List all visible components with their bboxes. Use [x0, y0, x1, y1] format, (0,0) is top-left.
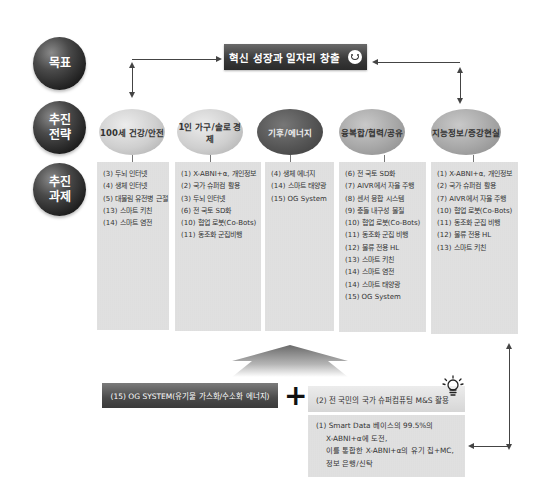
right-goal-connector: [378, 62, 460, 63]
task-item: (1) X-ABNI+α, 개인정보: [181, 168, 255, 180]
arrowhead-down-icon: [457, 98, 463, 104]
row-label-strategy: 추진 전략: [33, 101, 86, 154]
task-item: (11) 동조화 군집비행: [181, 229, 255, 241]
task-item: (1) X-ABNI+α, 개인정보: [437, 168, 512, 180]
strategy-oval-health: 100세 건강/안전: [99, 109, 165, 155]
task-item: (14) 스마트 염전: [345, 266, 420, 278]
smart-data-box: (1) Smart Data 베이스의 99.5%의 X-ABNI+α에 도전,…: [308, 415, 465, 477]
task-item: (15) OG System: [271, 193, 328, 205]
task-item: (12) 물류 전용 HL: [437, 229, 512, 241]
strategy-oval-convergence: 융복합/협력/공유: [339, 109, 405, 155]
goal-box: 혁신 성장과 일자리 창출: [224, 44, 367, 70]
strategy-label: 기후/에너지: [268, 126, 311, 138]
task-item: (13) 스마트 키친: [437, 242, 512, 254]
task-item: (7) AIVR에서 자율 주행: [345, 180, 420, 192]
smart-data-line: X-ABNI+α에 도전,: [316, 433, 457, 446]
goal-title: 혁신 성장과 일자리 창출: [229, 50, 340, 65]
row-label-tasks-line2: 과제: [49, 190, 71, 205]
row-label-strategy-line2: 전략: [49, 128, 71, 143]
smart-data-line: 정보 은행/신탁: [316, 458, 457, 471]
task-box-solo-economy: (1) X-ABNI+α, 개인정보 (2) 국가 슈퍼컴 활용 (3) 두뇌 …: [175, 162, 261, 331]
strategy-label: 100세 건강/안전: [100, 126, 164, 138]
task-item: (6) 전 국토 SD화: [181, 205, 255, 217]
task-box-convergence: (6) 전 국토 SD화 (7) AIVR에서 자율 주행 (8) 센서 융합 …: [339, 162, 426, 332]
og-system-text: (15) OG SYSTEM(유기물 가스화/수소화 에너지): [111, 390, 270, 401]
strategy-label: 융복합/협력/공유: [341, 126, 403, 138]
task-item: (4) 생체 인터넷: [103, 180, 163, 192]
arrowhead-up-icon: [506, 343, 512, 349]
task-box-health: (3) 두뇌 인터넷 (4) 생체 인터넷 (5) 대물림 유전병 근절 (13…: [97, 162, 169, 330]
right-bottom-horizontal-connector: [474, 446, 509, 447]
arrowhead-up-icon: [129, 62, 135, 68]
task-box-climate-energy: (4) 생체 에너지 (14) 스마트 태양광 (15) OG System: [265, 162, 334, 331]
row-label-tasks: 추진 과제: [33, 163, 86, 216]
task-item: (8) 센서 융합 시스템: [345, 193, 420, 205]
lightbulb-icon: [442, 375, 464, 399]
smiley-icon: [348, 50, 362, 64]
og-system-bar: (15) OG SYSTEM(유기물 가스화/수소화 에너지): [102, 383, 278, 408]
task-item: (14) 스마트 염전: [103, 217, 163, 229]
strategy-oval-solo-economy: 1인 가구/솔로 경제: [177, 109, 243, 155]
row-label-goal-text: 목표: [49, 56, 71, 71]
arrowhead-left-icon: [372, 59, 378, 65]
arrowhead-down-icon: [506, 444, 512, 450]
arrowhead-up-icon: [457, 67, 463, 73]
task-item: (5) 대물림 유전병 근절: [103, 193, 163, 205]
row-label-tasks-line1: 추진: [49, 175, 71, 190]
task-item: (14) 스마트 태양광: [345, 279, 420, 291]
supercomputing-text: (2) 전 국민의 국가 슈퍼컴퓨팅 M&S 활용: [316, 394, 449, 405]
task-item: (13) 스마트 키친: [345, 254, 420, 266]
task-item: (14) 스마트 태양광: [271, 180, 328, 192]
strategy-label: 지능정보/증강현실: [432, 126, 499, 138]
strategy-oval-climate-energy: 기후/에너지: [257, 109, 323, 155]
strategy-label: 1인 가구/솔로 경제: [177, 120, 243, 144]
smart-data-line: (1) Smart Data 베이스의 99.5%의: [316, 420, 457, 433]
left-vertical-connector: [132, 66, 133, 92]
strategy-oval-intelligence: 지능정보/증강현실: [431, 109, 501, 155]
plus-icon: +: [284, 382, 307, 410]
arrowhead-left-icon: [468, 443, 474, 449]
right-bottom-vertical-connector: [509, 348, 510, 446]
task-item: (4) 생체 에너지: [271, 168, 328, 180]
task-item: (11) 동조화 군집 비행: [345, 229, 420, 241]
task-item: (10) 협업 로봇(Co-Bots): [181, 217, 255, 229]
task-item: (9) 충돌 내구성 물질: [345, 205, 420, 217]
task-box-intelligence: (1) X-ABNI+α, 개인정보 (2) 국가 슈퍼컴 활용 (7) AIV…: [431, 162, 518, 334]
right-vertical-connector: [460, 72, 461, 98]
task-item: (7) AIVR에서 자율 주행: [437, 193, 512, 205]
task-item: (12) 물류 전용 HL: [345, 242, 420, 254]
task-item: (10) 협업 로봇(Co-Bots): [437, 205, 512, 217]
arrowhead-down-icon: [129, 92, 135, 98]
task-item: (3) 두뇌 인터넷: [181, 193, 255, 205]
task-item: (3) 두뇌 인터넷: [103, 168, 163, 180]
task-item: (15) OG System: [345, 291, 420, 303]
arrowhead-right-icon: [216, 56, 222, 62]
row-label-strategy-line1: 추진: [49, 113, 71, 128]
task-item: (11) 동조화 군집 비행: [437, 217, 512, 229]
left-goal-connector: [132, 59, 220, 60]
task-item: (6) 전 국토 SD화: [345, 168, 420, 180]
large-up-arrow-icon: [232, 345, 348, 377]
task-item: (13) 스마트 키친: [103, 205, 163, 217]
row-label-goal: 목표: [33, 37, 86, 90]
task-item: (10) 협업 로봇(Co-Bots): [345, 217, 420, 229]
task-item: (2) 국가 슈퍼컴 활용: [181, 180, 255, 192]
task-item: (2) 국가 슈퍼컴 활용: [437, 180, 512, 192]
smart-data-line: 이를 통합한 X-ABNI+α의 유기 칩+MC,: [316, 445, 457, 458]
